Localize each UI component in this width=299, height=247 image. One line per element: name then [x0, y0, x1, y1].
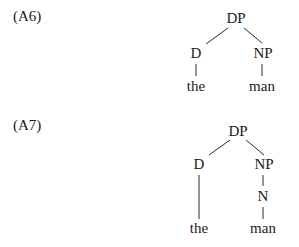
leaf-a7-the: the: [190, 221, 208, 236]
node-a7-dp: DP: [228, 124, 247, 139]
leaf-a7-man: man: [250, 221, 276, 236]
example-label-a6: (A6): [13, 9, 41, 24]
node-a7-n: N: [258, 189, 269, 204]
leaf-a6-the: the: [187, 79, 205, 94]
edge-a6-dp-np: [244, 28, 262, 43]
tree-edges: [0, 0, 299, 247]
node-a6-dp: DP: [226, 11, 245, 26]
edge-a6-dp-d: [206, 28, 228, 44]
leaf-a6-man: man: [249, 79, 275, 94]
node-a7-np: NP: [254, 157, 273, 172]
edge-a7-dp-np: [246, 140, 264, 155]
node-a6-d: D: [191, 46, 202, 61]
example-label-a7: (A7): [13, 118, 41, 133]
edge-a7-dp-d: [209, 140, 230, 155]
node-a6-np: NP: [253, 46, 272, 61]
node-a7-d: D: [194, 157, 205, 172]
